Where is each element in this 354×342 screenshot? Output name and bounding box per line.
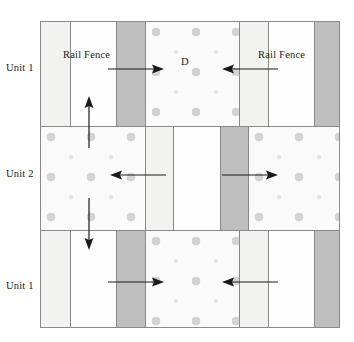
- arrow-top-left: [222, 63, 278, 75]
- strip-light-left-b: [41, 231, 70, 327]
- strip-white-center: [173, 127, 220, 230]
- arrow-mid-left: [110, 169, 166, 181]
- arrow-bottom-left: [222, 276, 278, 288]
- strip-light-left: [41, 22, 70, 126]
- arrow-down: [83, 198, 95, 250]
- row-label-unit-1-top: Unit 1: [6, 63, 34, 74]
- rail-fence-label-left: Rail Fence: [63, 50, 110, 61]
- arrow-mid-right: [222, 169, 278, 181]
- plot-frame: [40, 21, 340, 328]
- row-label-unit-2: Unit 2: [6, 169, 34, 180]
- arrow-bottom-right: [108, 276, 164, 288]
- row-label-unit-1-bottom: Unit 1: [6, 281, 34, 292]
- strip-dark-right-b: [314, 231, 339, 327]
- diagram-canvas: Unit 1 Unit 2 Unit 1: [0, 0, 354, 342]
- rail-fence-label-right: Rail Fence: [258, 50, 305, 61]
- arrow-up: [83, 96, 95, 148]
- distance-label-d: D: [181, 57, 189, 68]
- strip-dark-right: [314, 22, 339, 126]
- arrow-top-right: [108, 63, 164, 75]
